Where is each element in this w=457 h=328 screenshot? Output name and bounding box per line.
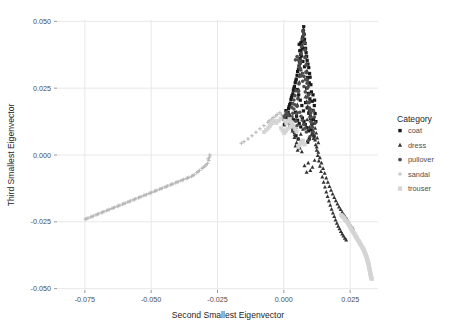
data-point (307, 106, 311, 110)
x-tick-label: -0.075 (75, 295, 95, 304)
legend-marker-coat[interactable] (398, 129, 401, 132)
legend-marker-trouser[interactable] (398, 187, 402, 191)
data-point (313, 121, 317, 125)
data-point (370, 277, 373, 280)
data-point (295, 55, 299, 59)
data-point (304, 63, 308, 67)
data-point (311, 93, 314, 96)
data-point (297, 82, 301, 86)
data-point (300, 104, 303, 107)
data-point (297, 65, 301, 69)
data-point (304, 90, 308, 94)
y-axis-title: Third Smallest Eigenvector (6, 104, 16, 207)
data-point (304, 78, 308, 82)
data-point (299, 52, 303, 56)
legend-label-dress[interactable]: dress (408, 141, 426, 150)
x-tick-label: -0.025 (207, 295, 227, 304)
data-point (297, 93, 300, 96)
data-point (289, 98, 292, 101)
x-axis-title: Second Smallest Eigenvector (172, 310, 284, 320)
data-point (290, 106, 294, 110)
data-point (296, 145, 299, 148)
data-point (303, 126, 307, 130)
data-point (296, 97, 300, 101)
data-point (313, 99, 316, 102)
data-point (292, 98, 296, 102)
data-point (303, 143, 306, 146)
data-point (299, 125, 302, 128)
y-tick-label: -0.025 (31, 217, 51, 226)
data-point (294, 120, 298, 124)
data-point (301, 30, 305, 34)
data-point (298, 110, 302, 114)
data-point (279, 127, 282, 130)
data-point (309, 116, 313, 120)
data-point (299, 68, 303, 72)
data-point (311, 130, 315, 134)
grid-lines (57, 20, 378, 290)
data-point (293, 94, 297, 98)
data-point (300, 45, 304, 49)
data-point (302, 109, 305, 112)
data-point (295, 130, 298, 133)
data-point (305, 130, 309, 134)
data-point (309, 111, 313, 115)
legend-marker-pullover[interactable] (398, 158, 402, 162)
data-point (302, 33, 306, 37)
data-point (312, 109, 316, 113)
data-point (304, 56, 308, 60)
data-point (306, 139, 310, 143)
legend-label-trouser[interactable]: trouser (408, 184, 432, 193)
y-tick-label: -0.050 (31, 284, 51, 293)
data-point (269, 122, 272, 125)
data-point (299, 114, 303, 118)
y-tick-label: 0.050 (33, 17, 51, 26)
data-point (301, 118, 305, 122)
data-point (298, 61, 302, 65)
data-point (288, 117, 291, 120)
data-point (310, 121, 314, 125)
chart-container: -0.075-0.050-0.0250.0000.025 0.0500.0250… (0, 0, 457, 328)
data-point (313, 115, 317, 119)
data-point (305, 95, 309, 99)
data-point (305, 71, 309, 75)
data-point (307, 66, 310, 69)
y-tick-label: 0.000 (33, 151, 51, 160)
data-point (300, 37, 304, 41)
data-point (306, 86, 310, 90)
scatter-chart-svg: -0.075-0.050-0.0250.0000.025 0.0500.0250… (0, 0, 457, 328)
x-tick-label: 0.000 (275, 295, 293, 304)
y-tick-label: 0.025 (33, 84, 51, 93)
data-point (302, 85, 306, 89)
data-point (301, 71, 305, 75)
data-point (303, 41, 307, 45)
data-point (291, 102, 295, 106)
data-point (306, 101, 310, 105)
data-point (313, 104, 316, 107)
scatter-plot-page: -0.075-0.050-0.0250.0000.025 0.0500.0250… (0, 0, 457, 328)
data-point (294, 58, 298, 62)
data-point (303, 48, 307, 52)
data-point (310, 125, 314, 129)
data-point (308, 135, 312, 139)
data-point (296, 70, 299, 73)
data-point (310, 90, 313, 93)
data-point (339, 213, 342, 216)
data-point (294, 81, 297, 84)
legend-label-coat[interactable]: coat (408, 126, 422, 135)
data-point (294, 89, 298, 93)
data-point (302, 122, 306, 126)
legend-label-sandal[interactable]: sandal (408, 170, 430, 179)
data-point (301, 139, 304, 142)
x-tick-label: -0.050 (141, 295, 161, 304)
data-point (291, 111, 295, 115)
legend-label-pullover[interactable]: pullover (408, 155, 434, 164)
data-point (302, 75, 306, 79)
data-point (295, 112, 299, 116)
x-tick-label: 0.025 (341, 295, 359, 304)
data-point (262, 130, 265, 133)
legend-title: Category (397, 114, 433, 124)
data-point (305, 82, 309, 86)
